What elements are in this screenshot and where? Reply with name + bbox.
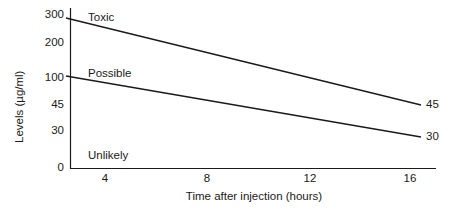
zone-label-unlikely: Unlikely — [88, 150, 128, 161]
y-tick-label-300: 300 — [24, 9, 64, 20]
endpoint-label-toxic-45: 45 — [426, 99, 439, 110]
chart-container: Levels (µg/ml) 300 200 100 45 30 0 4 8 1… — [0, 0, 449, 212]
series-line-possible — [66, 76, 421, 137]
zone-label-toxic: Toxic — [88, 12, 114, 23]
y-tick-label-30: 30 — [24, 125, 64, 136]
x-tick-label-8: 8 — [187, 173, 227, 184]
series-line-toxic — [66, 18, 421, 105]
y-tick-label-45: 45 — [24, 99, 64, 110]
x-tick-label-16: 16 — [390, 173, 430, 184]
y-tick-label-100: 100 — [24, 72, 64, 83]
x-axis-title: Time after injection (hours) — [124, 191, 384, 202]
zone-label-possible: Possible — [88, 68, 131, 79]
y-tick-label-200: 200 — [24, 37, 64, 48]
endpoint-label-possible-30: 30 — [426, 131, 439, 142]
x-tick-label-4: 4 — [85, 173, 125, 184]
x-tick-label-12: 12 — [290, 173, 330, 184]
y-tick-label-0: 0 — [24, 162, 64, 173]
